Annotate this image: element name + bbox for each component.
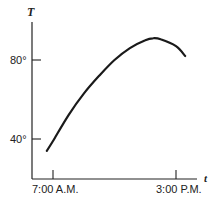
y-axis-label: T: [27, 6, 34, 18]
x-tick-label-7am: 7:00 A.M.: [32, 184, 78, 195]
x-tick-label-3pm: 3:00 P.M.: [156, 184, 202, 195]
y-tick-label-80: 80°: [10, 55, 27, 66]
x-axis-label: t: [204, 173, 207, 184]
y-tick-label-40: 40°: [10, 134, 27, 145]
temperature-curve: [47, 38, 185, 151]
chart-canvas: [0, 0, 224, 211]
